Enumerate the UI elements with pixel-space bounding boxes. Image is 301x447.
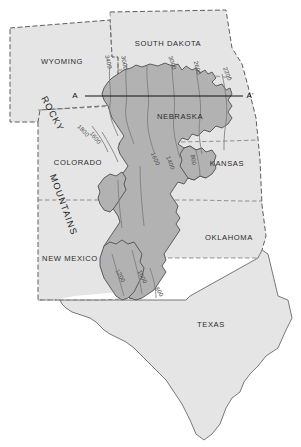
cross-section-end-label: A' xyxy=(247,91,254,100)
state-label-kansas: KANSAS xyxy=(210,159,244,168)
map-graphic: A A' 3400 3000 3000 2600 2200 1800 1600 … xyxy=(0,0,301,447)
state-label-south-dakota: SOUTH DAKOTA xyxy=(135,39,202,48)
map-container: A A' 3400 3000 3000 2600 2200 1800 1600 … xyxy=(0,0,301,447)
state-label-oklahoma: OKLAHOMA xyxy=(205,233,253,242)
state-label-wyoming: WYOMING xyxy=(41,57,83,66)
state-label-colorado: COLORADO xyxy=(54,158,102,167)
cross-section-start-label: A xyxy=(72,91,78,100)
state-label-nebraska: NEBRASKA xyxy=(157,112,203,121)
state-label-new-mexico: NEW MEXICO xyxy=(42,254,98,263)
state-label-texas: TEXAS xyxy=(197,320,225,329)
